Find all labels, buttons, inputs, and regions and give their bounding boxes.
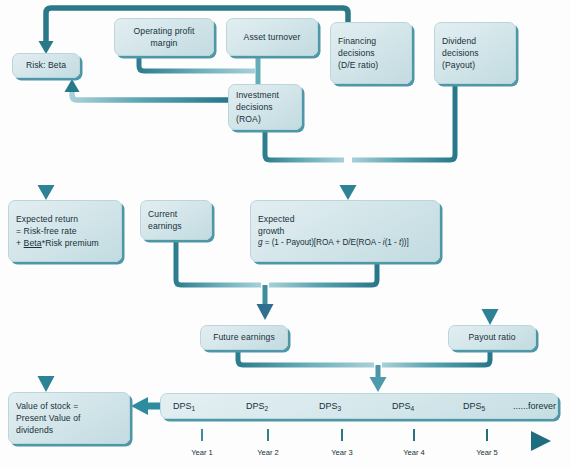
node-future-earnings[interactable]: Future earnings [200, 325, 288, 350]
wire-expected-return-to-value [38, 262, 55, 392]
dps-base-1: DPS [173, 401, 192, 411]
dps-base-2: DPS [246, 401, 265, 411]
wire-dividend-to-payout [482, 84, 499, 325]
expected-return-prefix: + [16, 238, 24, 248]
dps-sub-1: 1 [192, 405, 196, 412]
dps-sub-2: 2 [265, 405, 269, 412]
node-expected-return-line2: = Risk-free rate [16, 225, 114, 237]
node-expected-return-line1: Expected return [16, 213, 114, 225]
node-investment-decisions[interactable]: Investment decisions (ROA) [228, 84, 302, 130]
node-current-earnings-line1: Current [148, 208, 204, 220]
wire-growth-to-future [257, 262, 378, 320]
node-operating-profit-margin[interactable]: Operating profit margin [114, 18, 214, 56]
timeline-label-year-4: Year 4 [391, 448, 437, 457]
wire-investment-to-risk [65, 79, 229, 100]
dps-sub-5: 5 [482, 405, 486, 412]
node-risk-beta[interactable]: Risk: Beta [12, 53, 80, 78]
dps-item-3: DPS3 [319, 401, 341, 411]
node-dividend-label-line1: Dividend [442, 35, 508, 47]
dps-base-4: DPS [392, 401, 411, 411]
wire-dividend-to-growth [352, 84, 455, 160]
dps-forever-label: ......forever [513, 401, 556, 411]
node-financing-decisions[interactable]: Financing decisions (D/E ratio) [330, 22, 412, 84]
dps-sub-3: 3 [338, 405, 342, 412]
node-expected-growth-line1: Expected [258, 213, 432, 225]
node-opm-label-line2: margin [151, 37, 178, 49]
expected-return-beta: Beta [24, 238, 42, 248]
node-value-of-stock-line2: Present Value of [16, 412, 122, 424]
node-value-of-stock[interactable]: Value of stock = Present Value of divide… [8, 392, 130, 444]
node-financing-label-line1: Financing [338, 35, 404, 47]
node-opm-label-line1: Operating profit [134, 25, 195, 37]
wire-risk-to-expected-return [38, 78, 55, 200]
node-expected-growth-formula: g = (1 - Payout)[ROA + D/E(ROA - i(1 - t… [258, 237, 432, 249]
wire-current-earnings-to-future [176, 240, 261, 285]
node-payout-ratio[interactable]: Payout ratio [448, 325, 536, 350]
node-financing-label-line2: decisions [338, 47, 404, 59]
timeline-label-year-3: Year 3 [319, 448, 365, 457]
wire-investment-to-growth [265, 130, 344, 160]
node-financing-label-line3: (D/E ratio) [338, 59, 404, 71]
node-risk-beta-label: Risk: Beta [26, 59, 66, 71]
node-dividend-decisions[interactable]: Dividend decisions (Payout) [434, 22, 516, 84]
dps-base-5: DPS [463, 401, 482, 411]
timeline-label-year-5: Year 5 [464, 448, 510, 457]
expected-return-suffix: *Risk premium [42, 238, 99, 248]
formula-mid: (1 - [385, 238, 399, 247]
dps-item-4: DPS4 [392, 401, 414, 411]
node-expected-return-line3: + Beta*Risk premium [16, 237, 114, 249]
dps-base-3: DPS [319, 401, 338, 411]
node-value-of-stock-line1: Value of stock = [16, 400, 122, 412]
wire-opm-to-investment [139, 56, 255, 71]
dividend-stream-bar[interactable]: DPS1 DPS2 DPS3 DPS4 DPS5 ......forever [160, 393, 558, 419]
dps-item-2: DPS2 [246, 401, 268, 411]
dps-item-5: DPS5 [463, 401, 485, 411]
node-dividend-label-line3: (Payout) [442, 59, 508, 71]
timeline-label-year-1: Year 1 [179, 448, 225, 457]
node-investment-label-line2: decisions [236, 101, 294, 113]
formula-body: = (1 - Payout)[ROA + D/E(ROA - [263, 238, 383, 247]
node-asset-turnover-label: Asset turnover [244, 31, 301, 43]
dps-item-1: DPS1 [173, 401, 195, 411]
node-expected-growth-line2: growth [258, 225, 432, 237]
node-investment-label-line3: (ROA) [236, 113, 294, 125]
node-expected-return[interactable]: Expected return = Risk-free rate + Beta*… [8, 200, 122, 262]
node-asset-turnover[interactable]: Asset turnover [226, 18, 318, 56]
node-payout-ratio-label: Payout ratio [468, 331, 515, 343]
wire-financing-to-growth [340, 84, 357, 200]
wire-future-earnings-to-dps [238, 350, 374, 365]
node-future-earnings-label: Future earnings [213, 331, 275, 343]
node-value-of-stock-line3: dividends [16, 424, 122, 436]
node-dividend-label-line2: decisions [442, 47, 508, 59]
wire-payout-to-dps [370, 350, 491, 392]
node-investment-label-line1: Investment [236, 89, 294, 101]
node-current-earnings[interactable]: Current earnings [140, 200, 212, 240]
formula-end: ))] [401, 238, 409, 247]
dps-sub-4: 4 [411, 405, 415, 412]
node-expected-growth[interactable]: Expected growth g = (1 - Payout)[ROA + D… [250, 200, 440, 262]
valuation-flow-diagram: Risk: Beta Operating profit margin Asset… [0, 0, 571, 468]
timeline-label-year-2: Year 2 [245, 448, 291, 457]
node-current-earnings-line2: earnings [148, 220, 204, 232]
